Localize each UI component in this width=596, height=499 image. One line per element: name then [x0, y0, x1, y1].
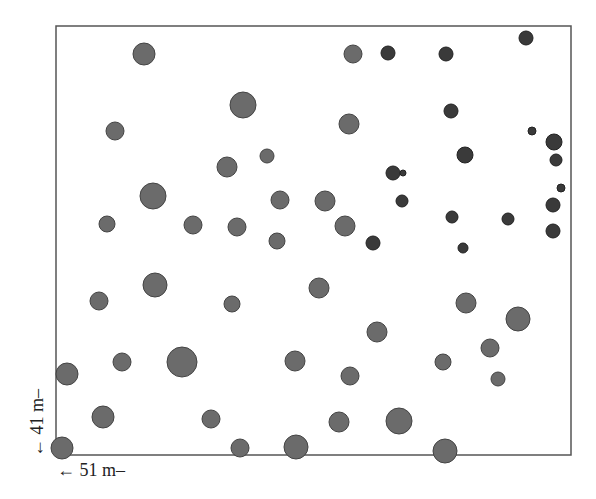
tree-circle-medium [284, 435, 308, 459]
tree-circle-medium [341, 367, 359, 385]
tree-circle-dark [546, 198, 560, 212]
tree-circle-medium [271, 191, 289, 209]
tree-circle-medium [202, 410, 220, 428]
tree-circle-medium [433, 439, 457, 463]
tree-circle-dark [550, 154, 562, 166]
tree-circle-medium [56, 363, 78, 385]
tree-circle-medium [90, 292, 108, 310]
tree-circle-medium [269, 233, 285, 249]
tree-circle-dark [396, 195, 408, 207]
tree-circle-dark [546, 134, 562, 150]
tree-circle-dark [366, 236, 380, 250]
tree-circle-dark [519, 31, 533, 45]
tree-circle-dark [502, 213, 514, 225]
tree-circle-medium [329, 412, 349, 432]
tree-circle-medium [133, 43, 155, 65]
tree-circle-medium [140, 183, 166, 209]
tree-circle-medium [481, 339, 499, 357]
tree-circle-dark [400, 170, 406, 176]
tree-circle-medium [51, 437, 73, 459]
plot-frame [56, 26, 571, 455]
tree-circle-medium [315, 191, 335, 211]
x-dimension-label: ← 51 m– [57, 460, 125, 481]
tree-circle-medium [344, 45, 362, 63]
tree-circle-medium [167, 347, 197, 377]
tree-circle-medium [435, 354, 451, 370]
tree-circle-medium [224, 296, 240, 312]
tree-circle-dark [546, 224, 560, 238]
tree-circle-medium [106, 122, 124, 140]
tree-map-plot [0, 0, 596, 499]
tree-circle-medium [184, 216, 202, 234]
tree-circle-dark [386, 166, 400, 180]
tree-circle-medium [309, 278, 329, 298]
tree-circle-medium [260, 149, 274, 163]
tree-circle-medium [230, 92, 256, 118]
tree-circle-medium [339, 114, 359, 134]
tree-circle-dark [457, 147, 473, 163]
tree-circle-medium [456, 293, 476, 313]
tree-circle-medium [335, 216, 355, 236]
tree-circle-dark [458, 243, 468, 253]
tree-circle-dark [557, 184, 565, 192]
tree-circle-medium [99, 216, 115, 232]
tree-circles-group [51, 31, 565, 463]
tree-circle-medium [386, 408, 412, 434]
tree-circle-medium [228, 218, 246, 236]
tree-circle-medium [285, 351, 305, 371]
y-dimension-label: ← 41 m– [27, 389, 48, 457]
tree-circle-dark [381, 46, 395, 60]
tree-circle-dark [528, 127, 536, 135]
tree-circle-dark [439, 47, 453, 61]
tree-circle-medium [217, 157, 237, 177]
tree-circle-medium [506, 307, 530, 331]
tree-circle-dark [444, 104, 458, 118]
tree-circle-medium [143, 273, 167, 297]
tree-circle-medium [92, 406, 114, 428]
tree-circle-medium [231, 439, 249, 457]
tree-circle-medium [491, 372, 505, 386]
tree-circle-dark [446, 211, 458, 223]
tree-circle-medium [113, 353, 131, 371]
tree-circle-medium [367, 322, 387, 342]
